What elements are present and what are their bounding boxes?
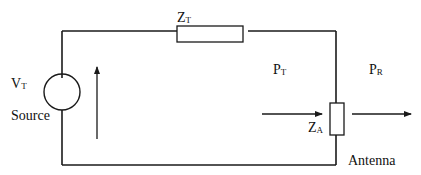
zt-label-main: Z [177,10,186,25]
circuit-diagram [0,0,421,175]
vt-label-main: V [11,76,21,91]
pr-label-main: P [369,62,377,77]
za-label-main: Z [308,120,317,135]
pt-label: PT [273,63,286,77]
antenna-impedance-resistor [330,103,344,135]
za-label-sub: A [317,125,324,135]
vt-label: VT [11,77,27,91]
pr-label-sub: R [377,67,383,77]
pt-label-sub: T [281,67,287,77]
vt-label-sub: T [21,81,27,91]
transmitter-impedance-resistor [177,26,243,42]
pr-label: PR [369,63,383,77]
zt-label-sub: T [186,15,192,25]
pt-label-main: P [273,62,281,77]
antenna-label: Antenna [348,154,395,168]
voltage-source-icon [44,74,80,110]
zt-label: ZT [177,11,191,25]
source-label: Source [11,109,50,123]
za-label: ZA [308,121,323,135]
